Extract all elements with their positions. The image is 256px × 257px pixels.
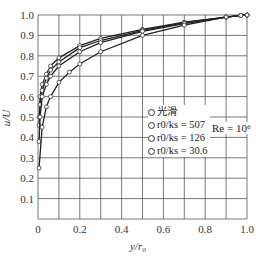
- svg-text:0.5: 0.5: [20, 111, 34, 123]
- svg-text:0.4: 0.4: [20, 131, 34, 143]
- svg-text:0.2: 0.2: [20, 172, 34, 184]
- svg-text:0.6: 0.6: [157, 223, 171, 235]
- svg-text:1.0: 1.0: [240, 223, 254, 235]
- svg-text:0: 0: [35, 223, 41, 235]
- svg-text:0.4: 0.4: [115, 223, 129, 235]
- y-axis-label: u/U: [0, 109, 12, 127]
- legend-item-30-6: r0/ks = 30.6: [148, 144, 210, 157]
- legend-item-507: r0/ks = 507: [148, 118, 210, 131]
- legend-item-126: r0/ks = 126: [148, 131, 210, 144]
- svg-text:0.8: 0.8: [198, 223, 212, 235]
- x-axis-label: y/r₀: [129, 240, 146, 252]
- grid: [38, 15, 247, 219]
- series-lines: [37, 13, 249, 170]
- svg-text:0.2: 0.2: [73, 223, 87, 235]
- svg-text:0.3: 0.3: [20, 152, 34, 164]
- circle-marker-icon: [148, 148, 155, 155]
- svg-text:0.1: 0.1: [20, 193, 34, 205]
- legend: 光滑 r0/ks = 507 r0/ks = 126 r0/ks = 30.6: [148, 105, 210, 157]
- svg-text:0.8: 0.8: [20, 50, 34, 62]
- svg-text:0.7: 0.7: [20, 70, 34, 82]
- svg-text:0.9: 0.9: [20, 29, 34, 41]
- circle-marker-icon: [148, 109, 155, 116]
- circle-marker-icon: [148, 135, 155, 142]
- reynolds-annotation: Re = 10⁶: [210, 122, 253, 134]
- svg-text:0.6: 0.6: [20, 91, 34, 103]
- circle-marker-icon: [148, 122, 155, 129]
- svg-text:1.0: 1.0: [20, 9, 34, 21]
- legend-item-smooth: 光滑: [148, 105, 210, 118]
